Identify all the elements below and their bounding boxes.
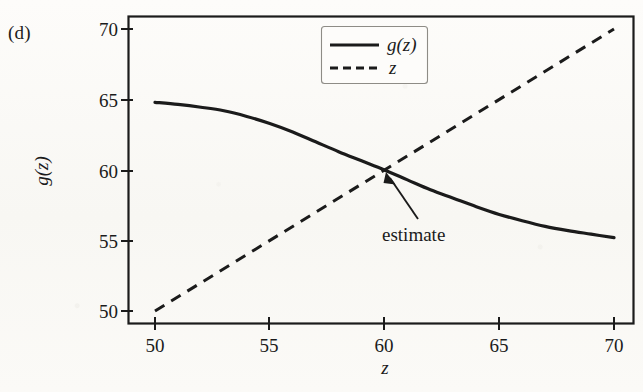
y-axis-ticks [121,29,133,311]
estimate-arrow [384,172,419,219]
legend-label-gz: g(z) [387,34,417,56]
estimate-annotation-label: estimate [382,224,445,246]
figure-panel: (d) 70 65 60 55 50 50 55 60 65 70 g(z) z [0,0,643,392]
plot-area [0,0,643,392]
legend-label-z: z [389,57,396,79]
series-line-gz [155,102,614,237]
